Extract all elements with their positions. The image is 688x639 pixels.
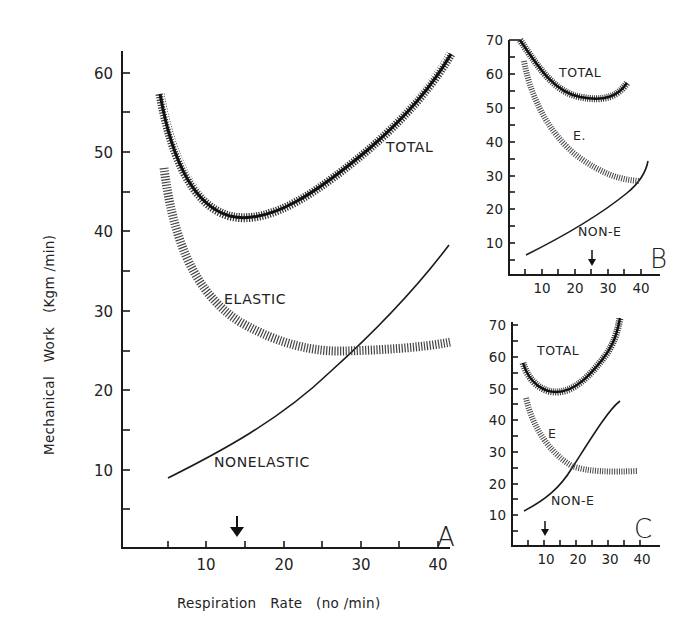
panel-c-y-tick-labels: 70 60 50 40 30 20 10	[489, 317, 506, 523]
panel-b-label-elastic: E.	[573, 128, 586, 143]
panel-a-x-ticks	[168, 541, 438, 548]
panel-a-y-ticks	[122, 73, 130, 509]
svg-text:40: 40	[632, 280, 649, 296]
panel-b-arrow-down-icon	[588, 250, 596, 266]
svg-text:40: 40	[633, 551, 650, 567]
svg-text:10: 10	[486, 235, 503, 251]
svg-text:50: 50	[489, 381, 506, 397]
svg-text:40: 40	[428, 556, 447, 574]
svg-text:10: 10	[94, 462, 113, 480]
svg-text:70: 70	[489, 317, 506, 333]
panel-c-label-elastic: E	[548, 426, 556, 441]
panel-c-axes	[512, 322, 660, 546]
svg-text:10: 10	[533, 280, 550, 296]
svg-text:20: 20	[94, 382, 113, 400]
svg-text:60: 60	[94, 65, 113, 83]
panel-c-x-tick-labels: 10 20 30 40	[537, 551, 650, 567]
svg-text:30: 30	[601, 551, 618, 567]
panel-c-label-nonelastic: NON-E	[551, 493, 594, 508]
panel-b-x-tick-labels: 10 20 30 40	[533, 280, 649, 296]
svg-text:60: 60	[486, 66, 503, 82]
panel-a-x-tick-labels: 10 20 30 40	[196, 556, 447, 574]
svg-text:30: 30	[351, 556, 370, 574]
panel-a-letter: A	[437, 522, 455, 552]
panel-a-label-elastic: ELASTIC	[224, 291, 286, 307]
svg-text:30: 30	[94, 303, 113, 321]
panel-a: 60 50 40 30 20 10 10 20 30 40 Respiratio…	[41, 51, 455, 611]
panel-a-label-total: TOTAL	[385, 139, 433, 155]
svg-text:40: 40	[489, 412, 506, 428]
svg-text:20: 20	[569, 551, 586, 567]
svg-text:30: 30	[489, 444, 506, 460]
svg-text:50: 50	[94, 144, 113, 162]
panel-a-x-axis-title: Respiration Rate (no /min)	[177, 595, 380, 611]
svg-text:40: 40	[94, 223, 113, 241]
svg-text:20: 20	[489, 476, 506, 492]
panel-b-label-total: TOTAL	[558, 65, 601, 80]
svg-text:10: 10	[196, 556, 215, 574]
svg-text:20: 20	[566, 280, 583, 296]
panel-a-label-nonelastic: NONELASTIC	[214, 454, 310, 470]
svg-text:10: 10	[537, 551, 554, 567]
panel-b-letter: B	[650, 244, 667, 274]
panel-b-label-nonelastic: NON-E	[578, 224, 621, 239]
svg-text:30: 30	[486, 168, 503, 184]
panel-a-y-axis-title: Mechanical Work (Kgm /min)	[41, 235, 57, 455]
svg-text:30: 30	[599, 280, 616, 296]
svg-text:20: 20	[274, 556, 293, 574]
svg-text:50: 50	[486, 100, 503, 116]
panel-a-arrow-down-icon	[230, 516, 244, 537]
panel-a-y-tick-labels: 60 50 40 30 20 10	[94, 65, 113, 480]
panel-c-arrow-down-icon	[541, 521, 549, 536]
panel-a-nonelastic-curve	[168, 245, 449, 478]
panel-c-elastic-curve	[526, 398, 638, 471]
svg-text:70: 70	[486, 32, 503, 48]
svg-text:60: 60	[489, 349, 506, 365]
figure-canvas: 60 50 40 30 20 10 10 20 30 40 Respiratio…	[0, 0, 688, 639]
panel-b-nonelastic-curve	[526, 161, 648, 255]
panel-c: 70 60 50 40 30 20 10 10 20 30 40	[489, 317, 660, 567]
svg-text:20: 20	[486, 201, 503, 217]
panel-b-y-tick-labels: 70 60 50 40 30 20 10	[486, 32, 503, 251]
panel-c-label-total: TOTAL	[536, 343, 579, 358]
svg-text:10: 10	[489, 507, 506, 523]
panel-b: 70 60 50 40 30 20 10 10 20 30 40	[486, 32, 667, 296]
svg-text:40: 40	[486, 134, 503, 150]
panel-c-letter: C	[634, 514, 652, 544]
panel-a-total-curve	[160, 51, 451, 218]
